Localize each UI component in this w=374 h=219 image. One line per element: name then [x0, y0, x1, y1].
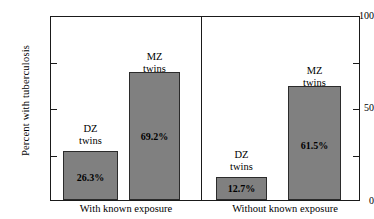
bar-without-exposure-mz[interactable]: 61.5%	[288, 86, 341, 200]
bar-with-exposure-dz[interactable]: 26.3%	[63, 151, 118, 200]
bar-caption-line1: MZ	[287, 65, 342, 77]
bar-caption-line2: twins	[127, 63, 182, 75]
bar-caption-line2: twins	[287, 77, 342, 89]
bar-caption-with-exposure-dz: DZ twins	[63, 123, 118, 146]
bar-caption-line2: twins	[63, 135, 118, 147]
bar-caption-without-exposure-dz: DZ twins	[214, 149, 269, 172]
y-tick-right-25	[353, 156, 359, 157]
bar-value-without-exposure-dz: 12.7%	[217, 183, 266, 194]
bar-without-exposure-dz[interactable]: 12.7%	[216, 177, 267, 201]
bar-caption-without-exposure-mz: MZ twins	[287, 65, 342, 88]
group-label-without-exposure: Without known exposure	[205, 203, 365, 214]
bar-caption-line1: DZ	[214, 149, 269, 161]
bar-caption-line1: MZ	[127, 51, 182, 63]
bar-with-exposure-mz[interactable]: 69.2%	[129, 72, 180, 200]
bar-caption-line1: DZ	[63, 123, 118, 135]
bar-caption-line2: twins	[214, 161, 269, 173]
panel-divider	[201, 17, 202, 200]
group-label-with-exposure: With known exposure	[52, 203, 200, 214]
y-tick-left-25	[51, 156, 57, 157]
y-tick-left-75	[51, 63, 57, 64]
tuberculosis-twins-bar-chart: Percent with tuberculosis 100 50 0 26.3%…	[0, 0, 374, 219]
y-tick-right-50	[353, 109, 359, 110]
bar-value-without-exposure-mz: 61.5%	[289, 140, 340, 151]
y-tick-right-75	[353, 63, 359, 64]
y-tick-left-50	[51, 109, 57, 110]
y-axis-title: Percent with tuberculosis	[20, 16, 31, 186]
plot-area: 26.3% DZ twins 69.2% MZ twins 12.7% DZ t…	[50, 16, 360, 201]
bar-caption-with-exposure-mz: MZ twins	[127, 51, 182, 74]
bar-value-with-exposure-mz: 69.2%	[130, 131, 179, 142]
bar-value-with-exposure-dz: 26.3%	[64, 172, 117, 183]
